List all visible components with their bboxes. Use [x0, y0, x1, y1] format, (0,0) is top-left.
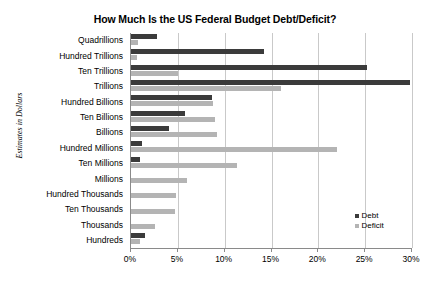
x-tick-mark: [130, 248, 131, 252]
bar-deficit: [131, 71, 178, 76]
category-label: Ten Trillions: [0, 64, 127, 79]
gridline: [412, 33, 413, 248]
x-tick-mark: [224, 248, 225, 252]
category-label: Thousands: [0, 217, 127, 232]
x-tick-label: 20%: [297, 254, 337, 264]
bar-deficit: [131, 132, 217, 137]
bar-debt: [131, 233, 145, 238]
bar-row: [131, 140, 411, 155]
bar-debt: [131, 80, 410, 85]
bar-deficit: [131, 147, 337, 152]
bar-debt: [131, 157, 140, 162]
bar-debt: [131, 65, 367, 70]
bar-debt: [131, 141, 142, 146]
y-axis-category-labels: QuadrillionsHundred TrillionsTen Trillio…: [0, 33, 127, 248]
category-label: Billions: [0, 125, 127, 140]
x-tick-label: 0%: [110, 254, 150, 264]
bar-deficit: [131, 163, 237, 168]
bar-deficit: [131, 178, 187, 183]
bar-debt: [131, 49, 264, 54]
chart-legend: DebtDeficit: [355, 211, 384, 231]
bar-debt: [131, 34, 157, 39]
category-label: Trillions: [0, 79, 127, 94]
legend-item[interactable]: Debt: [355, 211, 384, 221]
bar-deficit: [131, 239, 140, 244]
bar-deficit: [131, 193, 176, 198]
bar-deficit: [131, 40, 138, 45]
category-label: Hundred Billions: [0, 94, 127, 109]
x-tick-label: 25%: [344, 254, 384, 264]
chart-title: How Much Is the US Federal Budget Debt/D…: [0, 13, 430, 25]
category-label: Hundred Millions: [0, 140, 127, 155]
bar-deficit: [131, 209, 175, 214]
x-tick-mark: [364, 248, 365, 252]
category-label: Hundreds: [0, 232, 127, 247]
bar-row: [131, 186, 411, 201]
bar-row: [131, 125, 411, 140]
bar-deficit: [131, 55, 137, 60]
x-tick-label: 30%: [391, 254, 430, 264]
bar-deficit: [131, 86, 281, 91]
bar-deficit: [131, 101, 213, 106]
category-label: Ten Thousands: [0, 202, 127, 217]
legend-label: Deficit: [362, 221, 384, 231]
bar-row: [131, 79, 411, 94]
category-label: Hundred Thousands: [0, 186, 127, 201]
bar-row: [131, 33, 411, 48]
bar-row: [131, 171, 411, 186]
category-label: Ten Billions: [0, 110, 127, 125]
x-tick-label: 5%: [157, 254, 197, 264]
x-tick-label: 10%: [204, 254, 244, 264]
x-tick-mark: [271, 248, 272, 252]
bar-debt: [131, 111, 185, 116]
bar-deficit: [131, 117, 215, 122]
bar-debt: [131, 126, 169, 131]
x-tick-label: 15%: [251, 254, 291, 264]
category-label: Ten Millions: [0, 156, 127, 171]
bar-row: [131, 48, 411, 63]
category-label: Millions: [0, 171, 127, 186]
legend-label: Debt: [362, 211, 379, 221]
chart-container: How Much Is the US Federal Budget Debt/D…: [0, 0, 430, 283]
category-label: Hundred Trillions: [0, 48, 127, 63]
bar-row: [131, 110, 411, 125]
bar-debt: [131, 95, 212, 100]
legend-swatch-icon: [355, 214, 359, 218]
bar-row: [131, 156, 411, 171]
bar-row: [131, 94, 411, 109]
bar-deficit: [131, 224, 155, 229]
category-label: Quadrillions: [0, 33, 127, 48]
bar-row: [131, 64, 411, 79]
x-tick-mark: [411, 248, 412, 252]
legend-item[interactable]: Deficit: [355, 221, 384, 231]
legend-swatch-icon: [355, 224, 359, 228]
x-tick-mark: [317, 248, 318, 252]
x-tick-mark: [177, 248, 178, 252]
bar-row: [131, 232, 411, 247]
